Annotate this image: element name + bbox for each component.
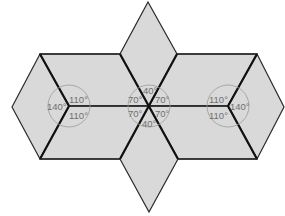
left-angle-110-lower: 110°: [69, 110, 88, 121]
left-angle-140: 140°: [47, 101, 67, 112]
right-angle-110-lower: 110°: [209, 110, 228, 121]
rhombus-tessellation-diagram: 140° 110° 110° 40° 70° 70° 70° 70° 40° 1…: [0, 0, 285, 216]
right-angle-110-upper: 110°: [209, 94, 228, 105]
center-angle-70-upper-right: 70°: [155, 94, 170, 105]
left-angle-110-upper: 110°: [69, 94, 88, 105]
center-angle-40-bottom: 40°: [142, 118, 157, 129]
center-angle-70-lower-right: 70°: [155, 108, 170, 119]
center-angle-70-upper-left: 70°: [128, 94, 143, 105]
right-angle-140: 140°: [230, 101, 250, 112]
center-angle-70-lower-left: 70°: [128, 108, 143, 119]
